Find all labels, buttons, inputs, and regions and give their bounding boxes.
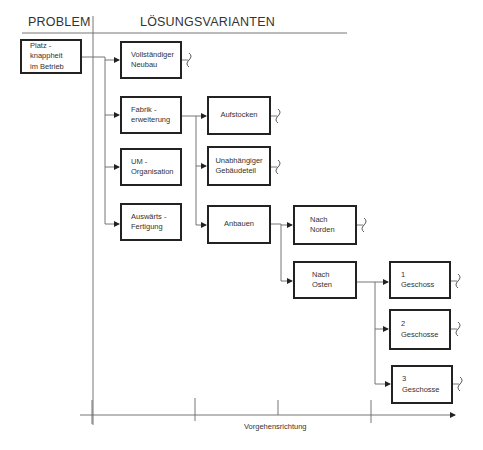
variant-box-unabhaengig: Unabhängiger Gebäudeteil <box>207 146 271 186</box>
variant-label: Unabhängiger Gebäudeteil <box>215 156 262 177</box>
variant-label: 2 Geschosse <box>391 319 439 340</box>
variant-label: Fabrik - erweiterung <box>122 105 170 126</box>
variant-box-aufstocken: Aufstocken <box>207 96 271 135</box>
variant-box-neubau: Vollständiger Neubau <box>120 41 182 79</box>
variant-label: Aufstocken <box>220 110 257 121</box>
variant-label: 3 Geschosse <box>393 374 440 395</box>
variant-label: Nach Osten <box>295 270 332 291</box>
variant-label: Vollständiger Neubau <box>122 50 174 71</box>
variant-box-norden: Nach Norden <box>293 205 357 245</box>
problem-box: Platz - knappheit im Betrieb <box>20 39 82 74</box>
variant-box-fabrik: Fabrik - erweiterung <box>120 96 182 134</box>
axis-label: Vorgehensrichtung <box>244 422 307 431</box>
variant-box-anbauen: Anbauen <box>207 205 271 244</box>
variant-box-1-geschoss: 1 Geschoss <box>389 261 451 299</box>
variant-box-osten: Nach Osten <box>293 261 357 299</box>
variant-box-auswaerts: Auswärts - Fertigung <box>120 203 182 241</box>
solutions-header: LÖSUNGSVARIANTEN <box>140 15 275 29</box>
variant-label: Auswärts - Fertigung <box>122 212 166 233</box>
problem-label: Platz - knappheit im Betrieb <box>22 41 64 73</box>
variant-box-2-geschosse: 2 Geschosse <box>389 309 451 350</box>
variant-label: 1 Geschoss <box>391 270 434 291</box>
variant-label: UM - Organisation <box>122 157 174 178</box>
variant-box-um: UM - Organisation <box>120 148 182 186</box>
variant-box-3-geschosse: 3 Geschosse <box>391 365 453 404</box>
variant-label: Nach Norden <box>295 215 335 236</box>
variant-label: Anbauen <box>224 219 254 230</box>
problem-header: PROBLEM <box>28 15 91 29</box>
